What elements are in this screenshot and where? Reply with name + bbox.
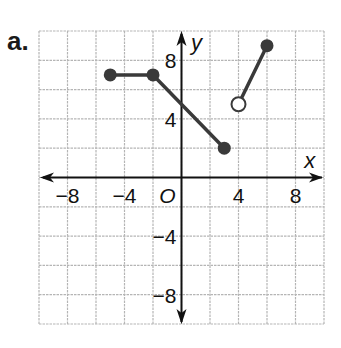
y-axis-label: y	[189, 30, 204, 55]
line-segment	[239, 46, 268, 105]
origin-label: O	[159, 184, 175, 207]
closed-endpoint	[104, 68, 117, 81]
closed-endpoint	[218, 142, 231, 155]
coordinate-plane: −8−44884−4−8Oxy	[0, 0, 341, 348]
y-tick-label: 8	[165, 49, 177, 72]
line-segment	[153, 75, 224, 148]
closed-endpoint	[261, 39, 274, 52]
x-tick-label: −4	[113, 184, 137, 207]
x-tick-label: −8	[56, 184, 80, 207]
open-endpoint	[232, 97, 246, 111]
graph-segments	[110, 46, 267, 149]
x-axis-label: x	[303, 148, 316, 173]
axes	[40, 31, 323, 324]
closed-endpoint	[147, 68, 160, 81]
y-tick-label: −4	[153, 225, 177, 248]
y-tick-label: −8	[153, 284, 177, 307]
graph-points	[104, 39, 274, 155]
x-tick-label: 8	[290, 184, 302, 207]
y-tick-label: 4	[165, 108, 177, 131]
x-tick-label: 4	[233, 184, 245, 207]
